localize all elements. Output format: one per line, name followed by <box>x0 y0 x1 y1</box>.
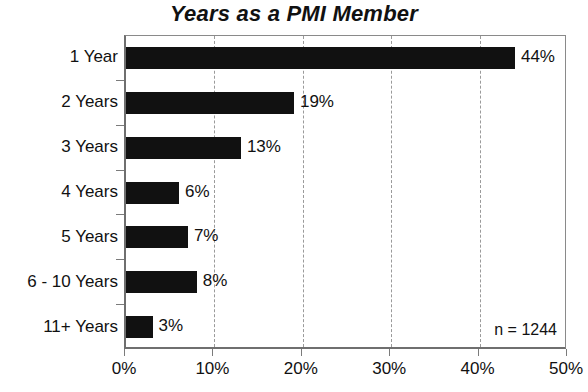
x-axis-label: 40% <box>438 359 518 379</box>
bar-value-label: 44% <box>521 46 555 68</box>
bar-row: 6% <box>126 171 565 216</box>
x-axis-label: 10% <box>172 359 252 379</box>
x-axis-tick <box>301 349 302 356</box>
y-axis-label: 4 Years <box>0 181 118 203</box>
x-axis-tick <box>124 349 125 356</box>
bar <box>126 47 515 69</box>
bar-value-label: 7% <box>194 225 219 247</box>
bar <box>126 92 294 114</box>
chart-title: Years as a PMI Member <box>0 1 588 27</box>
bar <box>126 182 179 204</box>
y-axis-category-labels: 1 Year2 Years3 Years4 Years5 Years6 - 10… <box>0 35 118 349</box>
y-axis-label: 5 Years <box>0 226 118 248</box>
x-axis-tick <box>478 349 479 356</box>
bar-value-label: 8% <box>203 270 228 292</box>
x-axis-label: 50% <box>526 359 588 379</box>
y-axis-tick <box>116 170 124 171</box>
x-axis-label: 0% <box>84 359 164 379</box>
bar-value-label: 19% <box>300 91 334 113</box>
bar <box>126 137 241 159</box>
y-axis-label: 2 Years <box>0 91 118 113</box>
x-axis-label: 30% <box>349 359 429 379</box>
y-axis-tick <box>116 125 124 126</box>
bar-row: 8% <box>126 260 565 305</box>
bar <box>126 316 153 338</box>
bar-row: 19% <box>126 81 565 126</box>
bar-value-label: 6% <box>185 181 210 203</box>
x-axis-tick <box>566 349 567 356</box>
bar <box>126 271 197 293</box>
bar <box>126 226 188 248</box>
y-axis-label: 6 - 10 Years <box>0 271 118 293</box>
chart-container: Years as a PMI Member 1 Year2 Years3 Yea… <box>0 0 588 392</box>
bar-row: 7% <box>126 215 565 260</box>
bar-series: 44%19%13%6%7%8%3% <box>126 36 565 347</box>
y-axis-tick <box>116 80 124 81</box>
y-axis-label: 3 Years <box>0 136 118 158</box>
x-axis-tick <box>389 349 390 356</box>
bar-value-label: 13% <box>247 136 281 158</box>
bar-value-label: 3% <box>159 315 184 337</box>
bar-row: 13% <box>126 126 565 171</box>
bar-row: 44% <box>126 36 565 81</box>
y-axis-label: 1 Year <box>0 46 118 68</box>
y-axis-label: 11+ Years <box>0 316 118 338</box>
x-axis-tick <box>212 349 213 356</box>
y-axis-tick <box>116 214 124 215</box>
x-axis-label: 20% <box>261 359 341 379</box>
sample-size-annotation: n = 1244 <box>494 321 557 339</box>
y-axis-tick <box>116 304 124 305</box>
y-axis-tick <box>116 259 124 260</box>
plot-area: 44%19%13%6%7%8%3% n = 1244 <box>124 35 566 349</box>
